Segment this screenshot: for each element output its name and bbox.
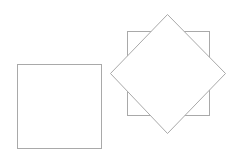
shapes-diagram xyxy=(0,0,239,161)
drawing-canvas xyxy=(0,0,239,161)
left-square-shape xyxy=(18,65,102,149)
